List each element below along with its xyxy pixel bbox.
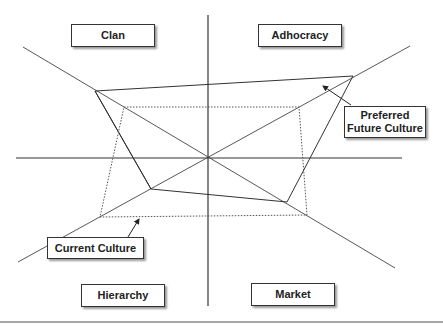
preferred-line2: Future Culture (347, 122, 423, 135)
current-culture-callout: Current Culture (47, 237, 144, 259)
market-label: Market (251, 283, 335, 306)
diagram-canvas (0, 0, 443, 327)
adhocracy-label: Adhocracy (258, 24, 342, 47)
preferred-line1: Preferred (361, 109, 410, 122)
preferred-culture-callout: Preferred Future Culture (344, 106, 426, 138)
clan-label: Clan (71, 24, 155, 47)
preferred-spoke (95, 91, 151, 189)
hierarchy-label: Hierarchy (81, 284, 165, 307)
current-arrow (128, 219, 139, 237)
preferred-culture-profile (95, 76, 353, 202)
